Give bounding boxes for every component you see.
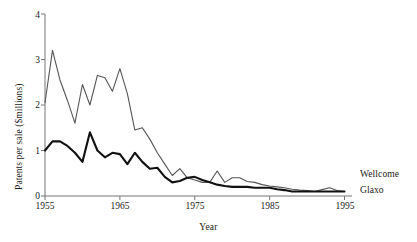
x-tick-marks — [45, 196, 345, 200]
chart-figure: Patents per sale ($millions) 4 3 2 1 0 1… — [0, 0, 417, 242]
plot-area — [0, 0, 417, 242]
y-tick-marks — [41, 14, 45, 196]
series-line-glaxo — [45, 132, 345, 191]
series-line-wellcome — [45, 50, 345, 191]
axis-lines — [45, 14, 352, 196]
